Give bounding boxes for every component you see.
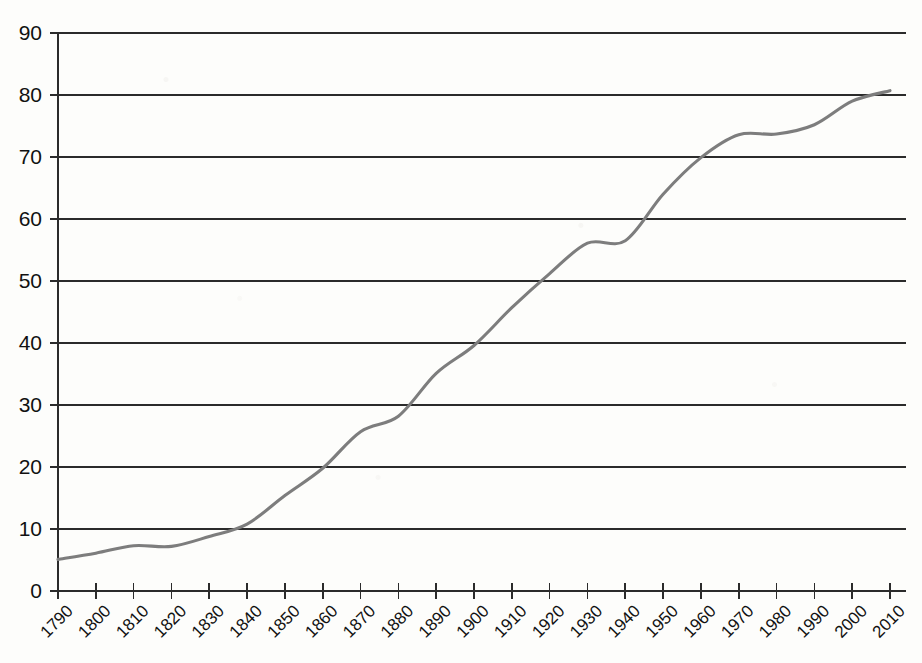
y-tick-label: 70: [19, 145, 42, 168]
y-tick-label: 30: [19, 393, 42, 416]
chart-background: [0, 0, 922, 663]
y-tick-label: 50: [19, 269, 42, 292]
y-tick-label: 20: [19, 455, 42, 478]
chart-canvas: 0102030405060708090 17901800181018201830…: [0, 0, 922, 663]
y-tick-label: 0: [30, 579, 42, 602]
y-tick-label: 80: [19, 83, 42, 106]
line-chart: 0102030405060708090 17901800181018201830…: [0, 0, 922, 663]
y-tick-label: 10: [19, 517, 42, 540]
y-tick-label: 40: [19, 331, 42, 354]
y-tick-label: 60: [19, 207, 42, 230]
y-tick-label: 90: [19, 21, 42, 44]
